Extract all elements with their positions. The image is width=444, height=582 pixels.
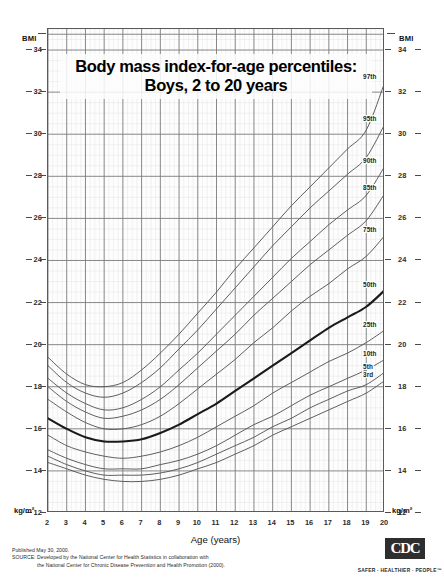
x-tick-6: 6 bbox=[113, 518, 131, 527]
y-tick-left-22: 22 bbox=[0, 298, 42, 307]
y-tick-mark-left-outer bbox=[26, 428, 32, 429]
y-axis-right-unit-top: BMI bbox=[399, 34, 414, 43]
y-tick-right-28: 28 bbox=[398, 171, 444, 180]
y-tick-mark-left bbox=[40, 259, 46, 260]
y-tick-mark-left-outer bbox=[26, 470, 32, 471]
title-line-2: Boys, 2 to 20 years bbox=[60, 76, 372, 95]
y-tick-mark-right-outer bbox=[415, 133, 421, 134]
y-tick-mark-right-outer bbox=[415, 91, 421, 92]
percentile-label-95th: 95th bbox=[362, 115, 378, 122]
y-axis-right-unit-bottom: kg/m² bbox=[392, 506, 412, 515]
y-tick-mark-left bbox=[40, 470, 46, 471]
y-tick-right-22: 22 bbox=[398, 298, 444, 307]
x-tick-5: 5 bbox=[94, 518, 112, 527]
y-tick-right-20: 20 bbox=[398, 340, 444, 349]
x-tick-10: 10 bbox=[188, 518, 206, 527]
x-tick-3: 3 bbox=[57, 518, 75, 527]
y-tick-mark-right bbox=[385, 91, 391, 92]
y-tick-mark-right-outer bbox=[415, 344, 421, 345]
x-tick-7: 7 bbox=[132, 518, 150, 527]
x-tick-13: 13 bbox=[244, 518, 262, 527]
y-tick-mark-right bbox=[385, 259, 391, 260]
y-tick-right-18: 18 bbox=[398, 382, 444, 391]
y-tick-mark-left bbox=[40, 49, 46, 50]
percentile-label-50th: 50th bbox=[362, 281, 378, 288]
cdc-logo-block: CDC bbox=[370, 538, 440, 559]
y-tick-left-24: 24 bbox=[0, 255, 42, 264]
y-tick-mark-right-outer bbox=[415, 175, 421, 176]
y-tick-mark-right-outer bbox=[415, 259, 421, 260]
percentile-label-5th: 5th bbox=[362, 363, 374, 370]
percentile-label-25th: 25th bbox=[362, 321, 378, 328]
published-date: Published May 30, 2000. bbox=[12, 547, 312, 554]
x-tick-12: 12 bbox=[225, 518, 243, 527]
y-tick-right-24: 24 bbox=[398, 255, 444, 264]
percentile-curves bbox=[48, 29, 383, 511]
y-tick-left-14: 14 bbox=[0, 466, 42, 475]
y-tick-mark-right bbox=[385, 175, 391, 176]
y-tick-mark-left-outer bbox=[26, 133, 32, 134]
y-tick-mark-left-outer bbox=[26, 259, 32, 260]
y-tick-right-34: 34 bbox=[398, 45, 444, 54]
footer-notes: Published May 30, 2000. SOURCE: Develope… bbox=[12, 547, 312, 569]
percentile-curve-25th bbox=[48, 330, 383, 458]
y-tick-right-16: 16 bbox=[398, 424, 444, 433]
percentile-curve-97th bbox=[48, 82, 383, 387]
percentile-curve-3rd bbox=[48, 380, 383, 481]
y-tick-left-28: 28 bbox=[0, 171, 42, 180]
y-tick-mark-right-outer bbox=[415, 512, 421, 513]
cdc-logo: CDC bbox=[385, 538, 426, 559]
x-tick-19: 19 bbox=[356, 518, 374, 527]
title-line-1: Body mass index-for-age percentiles: bbox=[60, 57, 372, 76]
y-tick-mark-left bbox=[40, 344, 46, 345]
y-tick-left-18: 18 bbox=[0, 382, 42, 391]
x-tick-18: 18 bbox=[338, 518, 356, 527]
bmi-growth-chart: 121416182022242628303234 121416182022242… bbox=[0, 0, 444, 582]
y-tick-mark-left-outer bbox=[26, 217, 32, 218]
percentile-curve-5th bbox=[48, 372, 383, 475]
page-title: Body mass index-for-age percentiles: Boy… bbox=[60, 54, 372, 99]
x-tick-11: 11 bbox=[207, 518, 225, 527]
y-tick-left-16: 16 bbox=[0, 424, 42, 433]
y-tick-mark-right-outer bbox=[415, 470, 421, 471]
y-tick-left-20: 20 bbox=[0, 340, 42, 349]
y-tick-mark-right bbox=[385, 302, 391, 303]
y-tick-mark-left-outer bbox=[26, 386, 32, 387]
y-tick-mark-right bbox=[385, 470, 391, 471]
percentile-curve-10th bbox=[48, 359, 383, 469]
y-tick-mark-right-outer bbox=[415, 49, 421, 50]
x-tick-9: 9 bbox=[169, 518, 187, 527]
y-tick-mark-right-outer bbox=[415, 217, 421, 218]
y-tick-left-32: 32 bbox=[0, 87, 42, 96]
y-tick-mark-right-outer bbox=[415, 302, 421, 303]
source-line-1: SOURCE: Developed by the National Center… bbox=[12, 554, 312, 561]
source-line-2: the National Center for Chronic Disease … bbox=[12, 562, 312, 569]
percentile-label-97th: 97th bbox=[362, 73, 378, 80]
y-tick-mark-left-outer bbox=[26, 91, 32, 92]
y-tick-mark-right bbox=[385, 49, 391, 50]
percentile-label-10th: 10th bbox=[362, 350, 378, 357]
x-tick-17: 17 bbox=[319, 518, 337, 527]
y-tick-mark-right bbox=[385, 386, 391, 387]
percentile-label-3rd: 3rd bbox=[362, 371, 374, 378]
y-tick-left-30: 30 bbox=[0, 129, 42, 138]
y-tick-mark-left bbox=[40, 302, 46, 303]
percentile-curve-90th bbox=[48, 166, 383, 410]
y-tick-mark-left bbox=[40, 133, 46, 134]
y-tick-mark-left bbox=[40, 217, 46, 218]
percentile-label-90th: 90th bbox=[362, 157, 378, 164]
x-tick-15: 15 bbox=[281, 518, 299, 527]
x-tick-14: 14 bbox=[263, 518, 281, 527]
plot-area bbox=[47, 28, 384, 512]
y-tick-left-34: 34 bbox=[0, 45, 42, 54]
y-axis-left-unit-bottom: kg/m² bbox=[14, 506, 34, 515]
y-tick-mark-right-outer bbox=[415, 386, 421, 387]
cdc-tagline: SAFER · HEALTHIER · PEOPLE™ bbox=[352, 568, 442, 573]
y-tick-mark-left bbox=[40, 428, 46, 429]
y-tick-mark-left bbox=[40, 175, 46, 176]
y-tick-mark-bmi-left bbox=[38, 33, 46, 34]
x-tick-4: 4 bbox=[75, 518, 93, 527]
percentile-curve-50th bbox=[48, 290, 383, 442]
y-axis-left-unit-top: BMI bbox=[22, 34, 37, 43]
percentile-label-85th: 85th bbox=[362, 184, 378, 191]
